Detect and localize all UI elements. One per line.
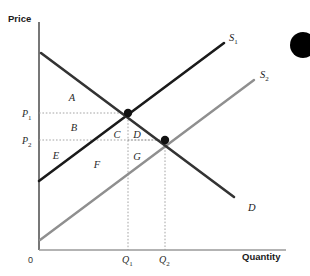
origin-label: 0 bbox=[28, 255, 33, 265]
equilibrium-points-group bbox=[124, 109, 169, 144]
quantity-tick-q1: Q1 bbox=[122, 254, 133, 268]
quantity-tick-labels-group: Q1Q2 bbox=[122, 254, 170, 268]
curve-label-supply-2: S2 bbox=[260, 69, 269, 83]
curves-group bbox=[39, 43, 254, 240]
curve-label-demand: D bbox=[247, 202, 256, 213]
equilibrium-point-e2 bbox=[161, 136, 169, 144]
region-label-A: A bbox=[68, 92, 76, 103]
price-tick-p2: P2 bbox=[21, 135, 32, 149]
diagram-canvas: Price Quantity 0 P1P2 Q1Q2 S1S2D ABCDEFG bbox=[0, 0, 310, 276]
region-label-B: B bbox=[71, 122, 78, 133]
x-axis-title: Quantity bbox=[242, 251, 281, 262]
supply-demand-diagram: Price Quantity 0 P1P2 Q1Q2 S1S2D ABCDEFG bbox=[0, 0, 310, 276]
curve-supply-2 bbox=[40, 80, 254, 240]
region-label-C: C bbox=[113, 129, 121, 140]
region-label-F: F bbox=[93, 159, 101, 170]
y-axis-title: Price bbox=[8, 13, 31, 24]
price-tick-p1: P1 bbox=[21, 108, 32, 122]
curve-label-supply-1: S1 bbox=[229, 32, 238, 46]
quantity-tick-q2: Q2 bbox=[159, 254, 170, 268]
region-label-E: E bbox=[52, 150, 60, 161]
curve-labels-group: S1S2D bbox=[229, 32, 269, 213]
region-label-G: G bbox=[133, 151, 141, 162]
price-tick-labels-group: P1P2 bbox=[21, 108, 32, 149]
axes-group bbox=[39, 22, 286, 250]
region-label-D: D bbox=[132, 129, 141, 140]
corner-dot-decoration bbox=[290, 32, 310, 58]
equilibrium-point-e1 bbox=[124, 109, 132, 117]
